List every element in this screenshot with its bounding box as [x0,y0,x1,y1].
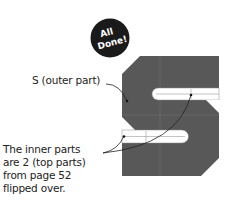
lower-bar-dot [123,135,126,138]
s-body [122,56,219,176]
inner-parts-line-1: The inner parts [3,143,86,156]
upper-bar-dot [190,94,193,97]
outer-part-dot [126,100,128,102]
inner-parts-line-4: flipped over. [3,182,86,195]
diagram-canvas: All Done! [0,0,227,206]
inner-parts-label: The inner parts are 2 (top parts) from p… [3,143,86,195]
outer-part-label: S (outer part) [32,74,100,87]
inner-parts-line-3: from page 52 [3,169,86,182]
inner-parts-line-2: are 2 (top parts) [3,156,86,169]
all-done-badge: All Done! [91,19,130,58]
s-outer-shape [122,56,219,177]
